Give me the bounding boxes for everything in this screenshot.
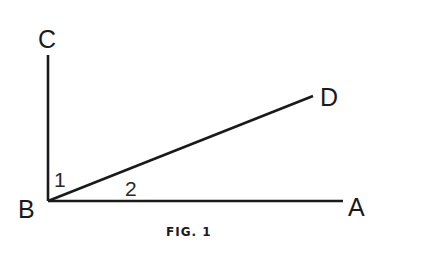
label-angle-2: 2 [125, 177, 137, 200]
segment-bd [48, 96, 313, 201]
label-angle-1: 1 [54, 168, 66, 191]
label-point-d: D [320, 83, 338, 111]
label-point-c: C [38, 25, 56, 53]
label-point-b: B [18, 195, 35, 223]
label-point-a: A [348, 193, 365, 221]
geometry-figure: C B D A 1 2 FIG. 1 [0, 0, 446, 258]
figure-caption: FIG. 1 [166, 225, 212, 239]
